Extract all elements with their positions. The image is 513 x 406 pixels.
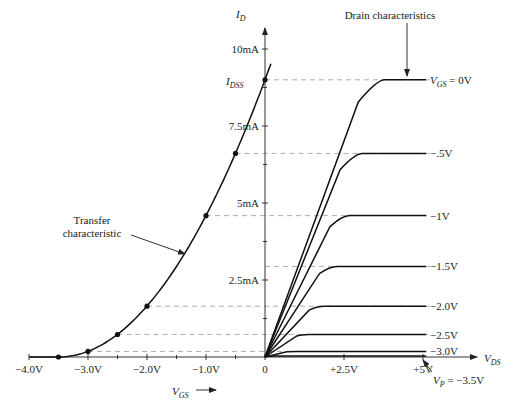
transfer-annotation-arrow xyxy=(131,235,185,254)
jfet-characteristics-chart: 2.5mA5mA7.5mA10mA−4.0V−3.0V−2.0V−1.0V0+2… xyxy=(0,0,513,406)
vp-label: VP = −3.5V xyxy=(433,374,484,389)
drain-curve xyxy=(265,216,426,357)
drain-label: −2.0V xyxy=(430,300,458,312)
drain-characteristics-label: Drain characteristics xyxy=(345,9,436,21)
x-tick-label-vgs: −1.0V xyxy=(192,363,220,375)
y-tick-label: 2.5mA xyxy=(229,274,259,286)
drain-label: −3.0V xyxy=(430,345,458,357)
x-axis-label-vds: VDS xyxy=(484,352,501,367)
x-tick-label-vgs: −4.0V xyxy=(15,363,43,375)
x-tick-label-vgs: −2.0V xyxy=(133,363,161,375)
y-axis-label: ID xyxy=(235,8,246,23)
drain-label: −1.5V xyxy=(430,260,458,272)
transfer-point xyxy=(144,304,149,309)
drain-label: −1V xyxy=(430,210,450,222)
transfer-curve xyxy=(29,64,271,357)
y-tick-label: 7.5mA xyxy=(229,120,259,132)
drain-label: −.5V xyxy=(430,147,452,159)
x-axis-label-vgs: VGS xyxy=(172,385,189,400)
transfer-point xyxy=(56,354,61,359)
drain-curve xyxy=(265,80,426,357)
y-tick-label: 5mA xyxy=(237,197,259,209)
transfer-point xyxy=(262,77,267,82)
transfer-point xyxy=(233,151,238,156)
drain-curve xyxy=(265,335,426,358)
x-tick-label-vgs: −3.0V xyxy=(74,363,102,375)
drain-curve xyxy=(265,266,426,357)
drain-label: −2.5V xyxy=(430,329,458,341)
x-tick-label-vds: +2.5V xyxy=(330,363,358,375)
y-tick-label: 10mA xyxy=(232,43,260,55)
idss-label: IDSS xyxy=(225,75,243,90)
transfer-point xyxy=(203,213,208,218)
transfer-point xyxy=(115,332,120,337)
drain-curve xyxy=(265,306,426,357)
x-tick-label-vgs: 0 xyxy=(262,363,268,375)
drain-curve xyxy=(265,153,426,357)
transfer-label-1: Transfer xyxy=(74,214,111,226)
transfer-label-2: characteristic xyxy=(63,227,122,239)
drain-label-vgs0: VGS = 0V xyxy=(430,74,472,89)
transfer-point xyxy=(85,349,90,354)
